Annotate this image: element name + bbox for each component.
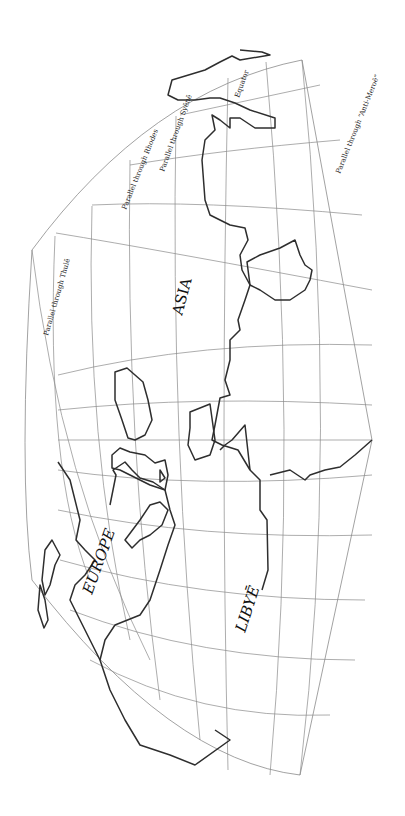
parallel-labels: Parallel through Thulē Parallel through … — [42, 68, 381, 336]
taprobane — [247, 240, 312, 300]
black-sea — [112, 448, 168, 490]
coastlines — [38, 50, 372, 765]
map-frame — [25, 60, 372, 775]
ptolemy-world-map: ASIA EUROPE LIBYĒ Parallel through Thulē… — [0, 0, 405, 816]
parallel-lines — [32, 85, 372, 715]
label-parallel-syene: Parallel through Syēnē — [158, 94, 193, 173]
label-parallel-thule: Parallel through Thulē — [42, 258, 72, 337]
libye-coast — [270, 440, 372, 480]
region-labels: ASIA EUROPE LIBYĒ — [79, 276, 264, 636]
asia-coast — [168, 50, 275, 590]
region-label-asia: ASIA — [168, 276, 195, 318]
label-parallel-anti-meroe: Parallel through “Anti-Meroē” — [334, 73, 381, 175]
arabia — [188, 404, 215, 460]
label-equator: Equator — [233, 68, 251, 98]
region-label-europe: EUROPE — [79, 526, 120, 597]
label-parallel-rhodes: Parallel through Rhodes — [120, 128, 160, 211]
meridian-lines — [53, 60, 320, 775]
british-isles — [42, 540, 60, 595]
region-label-libye: LIBYĒ — [231, 583, 263, 635]
